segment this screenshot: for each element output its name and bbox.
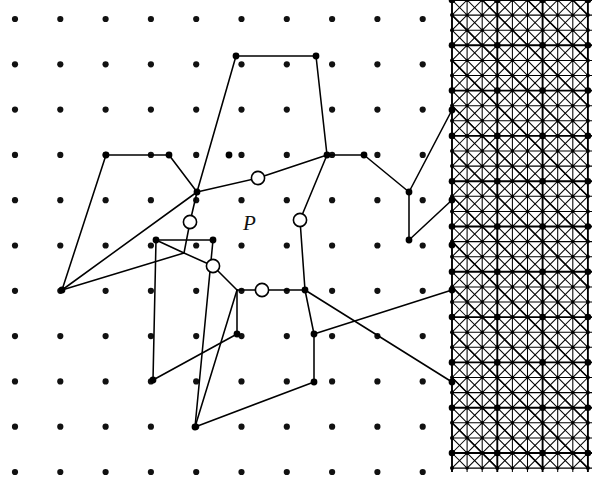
mesh-node [526,421,529,424]
mesh-node [481,13,484,16]
lattice-dot [238,16,244,22]
mesh-node [526,466,529,469]
mesh-node [481,74,484,77]
mesh-node [480,406,484,410]
mesh-coarse-node [449,450,456,457]
mesh-node [450,119,454,123]
mesh-node [495,13,499,17]
mesh-node [480,89,484,93]
mesh-node [556,240,559,243]
solid-vertex [361,152,368,159]
mesh-node [526,285,529,288]
mesh-node [481,59,484,62]
lattice-dot [12,16,18,22]
lattice-dot [193,288,199,294]
mesh-node [526,451,530,455]
mesh-node [556,195,559,198]
mesh-coarse-node [585,42,592,49]
mesh-node [556,74,559,77]
mesh-node [480,225,484,229]
mesh-node [495,300,499,304]
mesh-node [556,119,559,122]
solid-vertex [449,197,456,204]
lattice-dot [420,378,426,384]
mesh-node [556,43,560,47]
mesh-node [495,58,499,62]
mesh-node [495,436,499,440]
mesh-node [571,285,574,288]
mesh-node [481,195,484,198]
mesh-node [556,406,560,410]
lattice-dot [103,197,109,203]
mesh-coarse-node [539,178,546,185]
mesh-node [510,225,514,229]
mesh-coarse-node [449,133,456,140]
mesh-node [556,89,560,93]
mesh-node [526,43,530,47]
mesh-node [465,13,468,16]
mesh-node [586,164,590,168]
lattice-dot [238,288,244,294]
mesh-coarse-node [585,87,592,94]
mesh-node [480,134,484,138]
open-vertex [206,259,219,272]
mesh-node [571,195,574,198]
mesh-node [556,255,559,258]
mesh-node [571,104,574,107]
mesh-node [586,58,590,62]
mesh-node [526,300,529,303]
mesh-node [450,209,454,213]
mesh-node [526,210,529,213]
lattice-dot [193,378,199,384]
mesh-coarse-node [494,359,501,366]
solid-vertex [103,152,110,159]
mesh-node [480,451,484,455]
mesh-node [511,421,514,424]
mesh-node [556,29,559,32]
mesh-node [465,315,469,319]
lattice-dot [374,107,380,113]
solid-vertex [311,379,318,386]
lattice-dot [284,333,290,339]
mesh-node [465,421,468,424]
mesh-node [510,179,514,183]
mesh-node [480,43,484,47]
mesh-node [495,345,499,349]
lattice-dot [329,107,335,113]
lattice-dot [374,242,380,248]
mesh-node [541,345,545,349]
solid-vertex [192,424,199,431]
mesh-node [510,270,514,274]
mesh-node [571,406,575,410]
mesh-coarse-node [539,450,546,457]
mesh-node [511,164,514,167]
lattice-dot [284,469,290,475]
lattice-dot [420,288,426,294]
mesh-node [556,421,559,424]
solid-vertex [234,331,241,338]
mesh-node [481,29,484,32]
lattice-dot [284,107,290,113]
mesh-coarse-node [539,223,546,230]
mesh-node [481,240,484,243]
mesh-node [571,391,574,394]
mesh-node [495,209,499,213]
mesh-node [571,315,575,319]
lattice-dot [238,424,244,430]
mesh-node [556,13,559,16]
mesh-node [511,104,514,107]
lattice-dot [329,378,335,384]
mesh-node [571,376,574,379]
lattice-dot [12,469,18,475]
lattice-dot [420,197,426,203]
solid-vertex [324,152,331,159]
lattice-dot [12,424,18,430]
solid-vertex [313,53,320,60]
lattice-dot [103,424,109,430]
lattice-dot [420,242,426,248]
lattice-dot [374,61,380,67]
lattice-dot [374,16,380,22]
lattice-dot [103,378,109,384]
mesh-coarse-node [494,404,501,411]
mesh-node [465,164,468,167]
